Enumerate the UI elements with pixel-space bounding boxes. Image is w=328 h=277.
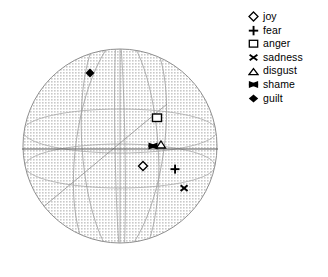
diamond-filled-icon — [243, 92, 263, 106]
cross-x-icon — [243, 51, 263, 65]
sphere-plot-svg — [0, 0, 230, 277]
legend-item-disgust: disgust — [243, 64, 328, 78]
legend-item-sadness: sadness — [243, 51, 328, 65]
emotion-sphere-figure: joy fear anger — [0, 0, 328, 277]
sphere-plot-area — [0, 0, 230, 277]
diamond-open-icon — [243, 10, 263, 24]
legend: joy fear anger — [243, 10, 328, 105]
legend-label-fear: fear — [263, 24, 282, 38]
legend-label-joy: joy — [263, 10, 277, 24]
triangle-open-icon — [243, 64, 263, 78]
plus-icon — [243, 24, 263, 38]
square-open-icon — [243, 37, 263, 51]
legend-item-fear: fear — [243, 24, 328, 38]
legend-label-sadness: sadness — [263, 51, 303, 65]
legend-item-shame: shame — [243, 78, 328, 92]
legend-item-guilt: guilt — [243, 92, 328, 106]
asterisk-filled-icon — [243, 78, 263, 92]
legend-item-joy: joy — [243, 10, 328, 24]
legend-label-anger: anger — [263, 37, 290, 51]
legend-label-shame: shame — [263, 78, 295, 92]
data-point-anger — [153, 114, 162, 122]
legend-item-anger: anger — [243, 37, 328, 51]
legend-label-guilt: guilt — [263, 92, 283, 106]
legend-label-disgust: disgust — [263, 64, 297, 78]
